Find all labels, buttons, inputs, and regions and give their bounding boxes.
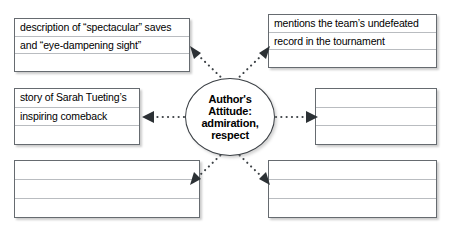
center-oval[interactable]: Author's Attitude: admiration, respect xyxy=(185,78,275,156)
idea-box-row[interactable]: story of Sarah Tueting’s xyxy=(15,89,139,108)
idea-box-row[interactable] xyxy=(15,161,199,180)
idea-box-row[interactable] xyxy=(316,89,436,108)
idea-box-row-text: record in the tournament xyxy=(274,36,385,47)
center-oval-line: respect xyxy=(211,129,249,141)
idea-box-row[interactable] xyxy=(15,126,139,144)
graphic-organizer: description of “spectacular” saves and “… xyxy=(0,0,452,232)
idea-box-top-left[interactable]: description of “spectacular” saves and “… xyxy=(14,18,190,72)
idea-box-row[interactable] xyxy=(316,108,436,127)
center-oval-line: admiration, xyxy=(201,117,258,129)
idea-box-row[interactable] xyxy=(269,199,436,217)
idea-box-row[interactable]: record in the tournament xyxy=(269,33,436,51)
idea-box-row[interactable] xyxy=(269,50,436,67)
center-oval-line: Attitude: xyxy=(208,105,251,117)
idea-box-row-text: and “eye-dampening sight” xyxy=(20,40,141,51)
idea-box-row-text: description of “spectacular” saves xyxy=(20,22,171,33)
idea-box-row-text: mentions the team’s undefeated xyxy=(274,18,419,29)
center-oval-line: Author's xyxy=(208,93,251,105)
idea-box-bottom-left[interactable] xyxy=(14,160,200,218)
idea-box-row[interactable] xyxy=(15,199,199,217)
idea-box-row[interactable] xyxy=(269,161,436,180)
idea-box-row-text: story of Sarah Tueting’s xyxy=(20,92,127,103)
idea-box-middle-left[interactable]: story of Sarah Tueting’s inspiring comeb… xyxy=(14,88,140,145)
idea-box-row-text: inspiring comeback xyxy=(20,111,107,122)
idea-box-row[interactable] xyxy=(269,180,436,199)
idea-box-row[interactable] xyxy=(15,54,189,71)
idea-box-top-right[interactable]: mentions the team’s undefeated record in… xyxy=(268,14,437,68)
connector-to-mid-left xyxy=(140,107,188,127)
idea-box-bottom-right[interactable] xyxy=(268,160,437,218)
idea-box-row[interactable] xyxy=(316,126,436,144)
idea-box-row[interactable]: description of “spectacular” saves xyxy=(15,19,189,37)
connector-to-mid-right xyxy=(272,107,320,127)
idea-box-row[interactable]: mentions the team’s undefeated xyxy=(269,15,436,33)
idea-box-row[interactable]: inspiring comeback xyxy=(15,108,139,127)
idea-box-row[interactable] xyxy=(15,180,199,199)
idea-box-row[interactable]: and “eye-dampening sight” xyxy=(15,37,189,55)
idea-box-middle-right[interactable] xyxy=(315,88,437,145)
